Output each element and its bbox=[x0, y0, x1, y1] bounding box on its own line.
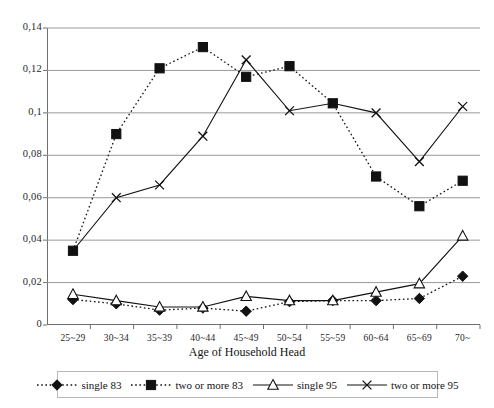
marker-triangle bbox=[457, 231, 467, 241]
y-tick-label: 0,1 bbox=[0, 106, 42, 117]
legend-item[interactable]: single 95 bbox=[252, 378, 337, 392]
y-tick-label: 0 bbox=[0, 318, 42, 329]
marker-diamond bbox=[52, 379, 62, 389]
y-tick-label: 0,04 bbox=[0, 233, 42, 244]
x-tick-label: 70~ bbox=[433, 333, 493, 343]
series-line bbox=[73, 276, 463, 311]
y-tick-label: 0,14 bbox=[0, 21, 42, 32]
marker-square bbox=[242, 72, 251, 81]
x-axis-ticks bbox=[90, 325, 480, 329]
marker-diamond bbox=[241, 306, 251, 316]
legend-marker-filled-square-icon bbox=[130, 378, 172, 392]
marker-square bbox=[458, 176, 467, 185]
legend-label: single 83 bbox=[81, 379, 121, 391]
marker-triangle bbox=[68, 289, 78, 299]
marker-square bbox=[415, 202, 424, 211]
marker-square bbox=[147, 380, 156, 389]
legend-label: two or more 95 bbox=[391, 379, 459, 391]
legend-item[interactable]: two or more 83 bbox=[130, 378, 243, 392]
legend-marker-cross-x-icon bbox=[346, 378, 388, 392]
y-axis-ticks bbox=[43, 28, 47, 325]
marker-diamond bbox=[371, 295, 381, 305]
marker-square bbox=[155, 64, 164, 73]
legend-marker-open-triangle-icon bbox=[252, 378, 294, 392]
marker-square bbox=[371, 172, 380, 181]
marker-diamond bbox=[414, 293, 424, 303]
y-tick-label: 0,12 bbox=[0, 63, 42, 74]
marker-square bbox=[112, 129, 121, 138]
chart-container: 00,020,040,060,080,10,120,14 25~2930~343… bbox=[0, 0, 494, 408]
series-layer bbox=[68, 42, 468, 316]
legend-item[interactable]: single 83 bbox=[36, 378, 121, 392]
x-axis-title: Age of Household Head bbox=[0, 345, 494, 360]
series-line bbox=[73, 47, 463, 251]
legend-label: two or more 83 bbox=[175, 379, 243, 391]
y-tick-label: 0,02 bbox=[0, 276, 42, 287]
y-tick-label: 0,06 bbox=[0, 191, 42, 202]
legend-marker-filled-diamond-icon bbox=[36, 378, 78, 392]
legend-item[interactable]: two or more 95 bbox=[346, 378, 459, 392]
marker-triangle bbox=[241, 291, 251, 301]
marker-diamond bbox=[457, 271, 467, 281]
series-line bbox=[73, 236, 463, 307]
legend-label: single 95 bbox=[297, 379, 337, 391]
marker-square bbox=[198, 42, 207, 51]
chart-legend: single 83two or more 83single 95two or m… bbox=[57, 371, 438, 398]
y-tick-label: 0,08 bbox=[0, 148, 42, 159]
marker-square bbox=[285, 62, 294, 71]
marker-triangle bbox=[268, 379, 278, 389]
gridlines bbox=[47, 28, 480, 283]
series-single-83 bbox=[68, 271, 468, 316]
